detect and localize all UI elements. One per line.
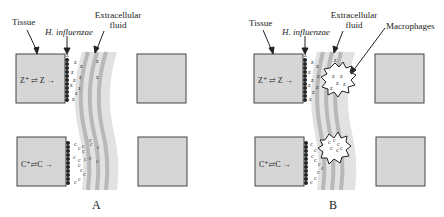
fluid-label-line2: fluid (329, 20, 379, 30)
svg-text:c: c (310, 141, 313, 147)
svg-text:c: c (78, 145, 81, 151)
svg-text:z: z (308, 82, 311, 88)
svg-text:z: z (78, 85, 81, 91)
svg-text:c: c (97, 144, 100, 150)
bacteria-chain-top (65, 58, 69, 102)
svg-text:z: z (75, 90, 78, 96)
svg-text:c: c (330, 145, 333, 151)
svg-text:c: c (310, 179, 313, 185)
panel-b: zzzz zzzz zzz zzzzz cccc ccccc cccc cc T… (222, 0, 444, 217)
svg-text:z: z (312, 89, 315, 95)
svg-text:z: z (316, 84, 319, 90)
svg-text:z: z (340, 73, 343, 79)
tissue-block-bottom-right (376, 137, 425, 186)
svg-text:c: c (74, 179, 77, 185)
svg-text:z: z (96, 58, 99, 64)
svg-text:c: c (340, 145, 343, 151)
panel-letter-b: B (329, 198, 337, 213)
svg-text:c: c (82, 148, 85, 154)
svg-text:c: c (321, 165, 324, 171)
panel-a-diagram: zzzz zzzz zzzz cccc cccc cccc ccccc (0, 0, 222, 217)
svg-text:z: z (334, 57, 337, 63)
equation-c: C⁺⇄C → (259, 160, 291, 170)
panel-b-diagram: zzzz zzzz zzz zzzzz cccc ccccc cccc cc (222, 0, 444, 217)
bacteria-label: H. influenzae (45, 27, 93, 37)
svg-text:z: z (332, 73, 335, 79)
bacteria-chain-bottom (304, 141, 308, 185)
svg-text:c: c (83, 171, 86, 177)
svg-text:z: z (308, 69, 311, 75)
svg-text:z: z (343, 81, 346, 87)
svg-text:c: c (96, 158, 99, 164)
svg-text:z: z (309, 96, 312, 102)
panel-a: zzzz zzzz zzzz cccc cccc cccc ccccc Tiss… (0, 0, 222, 217)
svg-text:c: c (90, 141, 93, 147)
bacteria-chain-top (303, 58, 307, 102)
svg-text:z: z (80, 63, 83, 69)
bacteria-label: H. influenzae (282, 27, 330, 37)
svg-text:z: z (70, 82, 73, 88)
equation-z: Z⁺ ⇄ Z → (20, 76, 55, 86)
tissue-label: Tissue (249, 18, 272, 28)
panel-letter-a: A (92, 198, 101, 213)
svg-text:c: c (314, 175, 317, 181)
svg-text:z: z (74, 59, 77, 65)
svg-text:c: c (314, 157, 317, 163)
svg-text:c: c (74, 141, 77, 147)
svg-text:z: z (311, 59, 314, 65)
svg-text:z: z (316, 63, 319, 69)
fluid-label-line2: fluid (93, 20, 143, 30)
svg-text:c: c (73, 154, 76, 160)
svg-text:z: z (73, 77, 76, 83)
fluid-label-line1: Extracellular (329, 10, 379, 20)
svg-text:z: z (96, 74, 99, 80)
tissue-label: Tissue (12, 17, 35, 27)
svg-text:z: z (72, 96, 75, 102)
fluid-label-line1: Extracellular (93, 10, 143, 20)
svg-text:c: c (84, 156, 87, 162)
svg-text:z: z (317, 73, 320, 79)
equation-c: C⁺⇄C → (21, 160, 53, 170)
svg-text:z: z (311, 77, 314, 83)
equation-z: Z⁺ ⇄ Z → (258, 76, 293, 86)
svg-text:z: z (71, 69, 74, 75)
macrophages-label: Macrophages (386, 21, 434, 31)
svg-text:z: z (79, 74, 82, 80)
svg-text:c: c (336, 147, 339, 153)
tissue-block-top-right (375, 54, 424, 103)
svg-text:z: z (336, 80, 339, 86)
svg-text:c: c (314, 147, 317, 153)
svg-text:c: c (78, 176, 81, 182)
tissue-block-bottom-right (138, 137, 187, 186)
svg-text:c: c (333, 137, 336, 143)
svg-text:c: c (89, 155, 92, 161)
tissue-block-top-right (137, 54, 186, 103)
svg-text:z: z (330, 85, 333, 91)
bacteria-chain-bottom (66, 141, 70, 185)
svg-text:c: c (317, 169, 320, 175)
